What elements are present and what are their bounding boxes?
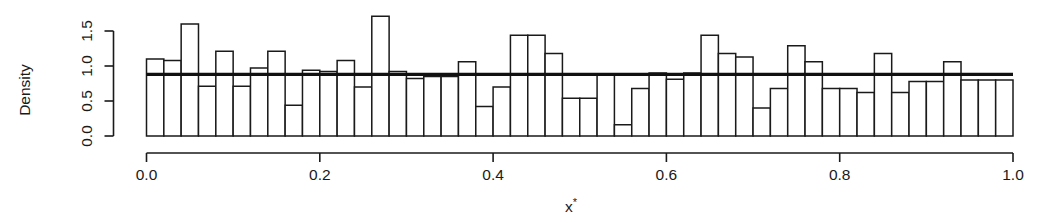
- histogram-bar: [147, 59, 164, 136]
- histogram-bar: [424, 77, 441, 137]
- histogram-bar: [926, 81, 943, 136]
- histogram-bar: [164, 60, 181, 136]
- histogram-bar: [753, 108, 770, 136]
- histogram-bar: [268, 51, 285, 136]
- histogram-bar: [476, 107, 493, 136]
- histogram-bar: [250, 68, 267, 136]
- histogram-bar: [372, 16, 389, 136]
- histogram-bar: [493, 87, 510, 136]
- histogram-bar: [857, 93, 874, 136]
- histogram-bar: [909, 81, 926, 136]
- histogram-bar: [198, 86, 215, 136]
- histogram-bar: [580, 98, 597, 136]
- histogram-bar: [406, 79, 423, 136]
- histogram-bar: [528, 35, 545, 136]
- histogram-bar: [233, 86, 250, 136]
- histogram-bar: [788, 46, 805, 136]
- histogram-bar: [510, 35, 527, 136]
- histogram-bar: [701, 35, 718, 136]
- histogram-bar: [354, 87, 371, 136]
- histogram-bar: [874, 53, 891, 136]
- histogram-bar: [181, 24, 198, 136]
- histogram-bar: [666, 79, 683, 136]
- x-axis: [147, 153, 1014, 162]
- histogram-bar: [545, 53, 562, 136]
- histogram-bar: [597, 75, 614, 136]
- histogram-bar: [770, 88, 787, 136]
- x-axis-tick-label: 1.0: [1002, 166, 1024, 183]
- histogram-bar: [389, 72, 406, 136]
- histogram-bar: [961, 80, 978, 136]
- histogram-bar: [822, 88, 839, 136]
- y-axis-tick-label: 1.0: [78, 55, 95, 77]
- histogram-figure: 0.00.51.01.5 0.00.20.40.60.81.0 Density …: [0, 0, 1055, 223]
- x-axis-tick-label: 0.8: [829, 166, 851, 183]
- histogram-bar: [736, 57, 753, 136]
- x-axis-tick-label: 0.6: [656, 166, 678, 183]
- histogram-bar: [337, 60, 354, 136]
- histogram-bars: [147, 16, 1014, 136]
- x-axis-title-superscript: *: [573, 196, 578, 208]
- histogram-bar: [614, 125, 631, 136]
- histogram-plot: 0.00.51.01.5 0.00.20.40.60.81.0 Density …: [0, 0, 1055, 223]
- histogram-bar: [441, 77, 458, 137]
- histogram-bar: [892, 93, 909, 136]
- histogram-bar: [840, 88, 857, 136]
- histogram-bar: [978, 80, 995, 136]
- histogram-bar: [718, 53, 735, 136]
- x-axis-tick-label: 0.2: [309, 166, 331, 183]
- histogram-bar: [996, 80, 1013, 136]
- histogram-bar: [649, 73, 666, 136]
- y-axis-tick-labels: 0.00.51.01.5: [78, 20, 95, 147]
- histogram-bar: [632, 88, 649, 136]
- histogram-bar: [562, 98, 579, 136]
- x-axis-tick-label: 0.0: [136, 166, 158, 183]
- x-axis-title: x*: [565, 196, 578, 215]
- histogram-bar: [216, 51, 233, 136]
- y-axis-tick-label: 1.5: [78, 20, 95, 42]
- y-axis-title: Density: [16, 64, 33, 116]
- histogram-bar: [285, 105, 302, 136]
- y-axis-tick-label: 0.5: [78, 90, 95, 112]
- x-axis-tick-label: 0.4: [482, 166, 504, 183]
- histogram-bar: [320, 72, 337, 136]
- y-axis: [105, 31, 114, 136]
- histogram-bar: [302, 70, 319, 136]
- histogram-bar: [684, 73, 701, 136]
- y-axis-tick-label: 0.0: [78, 125, 95, 147]
- x-axis-tick-labels: 0.00.20.40.60.81.0: [136, 166, 1024, 183]
